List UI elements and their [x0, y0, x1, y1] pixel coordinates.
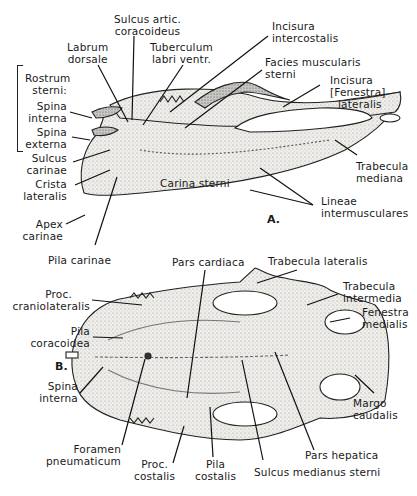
label-sulcus-medianus: Sulcus medianus sterni: [254, 466, 380, 478]
label-apex-carinae: Apexcarinae: [15, 218, 63, 242]
label-lineae-intermusculares: Lineaeintermusculares: [321, 195, 408, 219]
panel-label-b: B.: [55, 360, 68, 373]
label-proc-craniolateralis: Proc.craniolateralis: [10, 288, 90, 312]
label-pars-hepatica: Pars hepatica: [305, 449, 378, 461]
label-spina-interna-b: Spinainterna: [30, 380, 78, 404]
label-fenestra-medialis: Fenestramedialis: [362, 306, 409, 330]
label-tuberculum: Tuberculumlabri ventr.: [150, 41, 213, 65]
label-trabecula-mediana: Trabeculamediana: [356, 160, 408, 184]
label-pila-costalis: Pilacostalis: [195, 458, 236, 482]
label-margo-caudalis: Margocaudalis: [353, 397, 398, 421]
label-pars-cardiaca: Pars cardiaca: [172, 256, 245, 268]
label-sulcus-carinae: Sulcuscarinae: [15, 152, 67, 176]
label-trabecula-intermedia: Trabeculaintermedia: [343, 280, 402, 304]
label-spina-interna-a: Spinainterna: [25, 100, 67, 124]
rostrum-bracket: [17, 65, 23, 152]
label-incisura-fenestra: Incisura[Fenestra]lateralis: [330, 74, 386, 110]
label-rostrum-sterni: Rostrumsterni:: [25, 72, 67, 96]
label-pila-carinae: Pila carinae: [48, 254, 111, 266]
label-spina-externa: Spinaexterna: [25, 126, 67, 150]
label-labrum-dorsale: Labrumdorsale: [67, 41, 108, 65]
label-sulcus-artic: Sulcus artic.coracoideus: [114, 13, 181, 37]
label-proc-costalis: Proc.costalis: [134, 458, 175, 482]
panel-label-a: A.: [267, 213, 280, 226]
label-foramen-pneumaticum: Foramenpneumaticum: [45, 443, 121, 467]
label-incisura-intercostalis: Incisuraintercostalis: [272, 20, 338, 44]
label-crista-lateralis: Cristalateralis: [15, 178, 67, 202]
label-pila-coracoidea: Pilacoracoidea: [30, 325, 90, 349]
label-trabecula-lateralis: Trabecula lateralis: [268, 255, 368, 267]
panel-b-drawing: [66, 268, 389, 440]
label-carina-sterni: Carina sterni: [160, 177, 230, 189]
